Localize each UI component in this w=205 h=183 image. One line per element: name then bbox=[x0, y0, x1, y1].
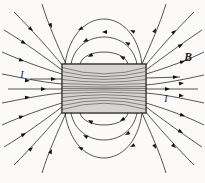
field-line bbox=[71, 37, 137, 64]
field-fan-top-right bbox=[142, 4, 204, 85]
arrowhead bbox=[171, 29, 177, 35]
arrowhead bbox=[165, 87, 170, 91]
field-line bbox=[65, 19, 142, 64]
arrowhead bbox=[179, 94, 184, 98]
arrowhead bbox=[77, 26, 83, 32]
arrowhead bbox=[124, 131, 130, 137]
field-line bbox=[80, 113, 128, 125]
arrowhead bbox=[124, 40, 130, 46]
field-line bbox=[14, 12, 63, 66]
arrowhead bbox=[180, 113, 186, 118]
field-fan-top-left bbox=[2, 4, 66, 84]
field-fan-bottom-right bbox=[142, 93, 204, 173]
diagram-canvas: B I I bbox=[0, 0, 205, 183]
arrowhead bbox=[51, 77, 56, 81]
field-line bbox=[14, 111, 63, 165]
field-line bbox=[71, 113, 137, 140]
arrowhead bbox=[102, 30, 107, 34]
arrowhead bbox=[19, 58, 25, 63]
field-line bbox=[4, 30, 62, 70]
current-label-right: I bbox=[163, 93, 168, 104]
arrowhead bbox=[41, 87, 46, 91]
field-line bbox=[65, 113, 142, 158]
arrowhead bbox=[179, 81, 184, 85]
field-line bbox=[145, 111, 194, 165]
magnetic-field-label: B bbox=[183, 51, 192, 63]
field-line bbox=[146, 103, 204, 125]
solenoid-body bbox=[62, 64, 146, 113]
field-line bbox=[4, 107, 62, 147]
field-line bbox=[2, 93, 62, 103]
field-loops-top bbox=[65, 19, 142, 64]
arrowhead bbox=[25, 95, 30, 99]
current-label-left: I bbox=[19, 69, 24, 80]
arrowhead bbox=[21, 131, 27, 137]
arrowhead bbox=[77, 145, 83, 151]
field-line bbox=[146, 93, 204, 103]
arrowhead bbox=[21, 40, 27, 46]
field-line bbox=[80, 52, 128, 64]
field-loops-bottom bbox=[65, 113, 142, 158]
arrowhead bbox=[19, 114, 25, 119]
field-line bbox=[146, 52, 204, 74]
field-fan-bottom-left bbox=[2, 93, 66, 173]
arrowhead bbox=[28, 146, 34, 152]
arrowhead bbox=[173, 75, 178, 79]
solenoid-field-diagram: B I I bbox=[0, 0, 205, 183]
